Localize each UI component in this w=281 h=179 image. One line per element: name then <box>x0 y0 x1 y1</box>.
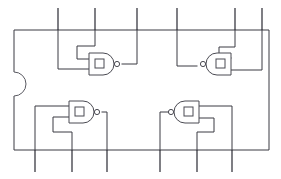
wire-tr-output <box>231 30 262 70</box>
pin-1-notch-icon <box>14 72 26 96</box>
gate-top-right-inner-square <box>216 59 225 68</box>
wire-bl-input-upper <box>35 106 69 150</box>
schematic-canvas <box>0 0 281 179</box>
wire-tr-input-upper <box>177 30 197 66</box>
bottom-pin-leads-group <box>35 150 232 172</box>
top-pin-leads-group <box>58 8 262 30</box>
gate-top-right[interactable] <box>200 53 231 75</box>
gate-bottom-right-inner-square <box>184 107 193 116</box>
gate-bottom-left-inversion-bubble-icon <box>94 109 99 114</box>
wire-tl-output <box>122 30 137 64</box>
gate-bottom-right[interactable] <box>168 101 199 123</box>
gate-top-left-inner-square <box>95 59 104 68</box>
wire-tl-input-upper <box>58 30 89 69</box>
gate-bottom-left[interactable] <box>69 101 100 123</box>
gate-bottom-left-inner-square <box>75 107 84 116</box>
wire-br-input-lower <box>197 118 214 150</box>
package-outline-group <box>14 30 269 150</box>
gate-top-right-inversion-bubble-icon <box>200 61 205 66</box>
gate-bottom-right-inversion-bubble-icon <box>168 109 173 114</box>
wire-bl-output <box>102 112 107 150</box>
wire-br-input-upper <box>160 112 171 150</box>
ic-logic-diagram: Integrated circuit internal logic diagra… <box>0 0 281 179</box>
wire-br-output <box>199 106 232 150</box>
gate-top-left-inversion-bubble-icon <box>114 61 119 66</box>
gate-top-left[interactable] <box>89 53 120 75</box>
